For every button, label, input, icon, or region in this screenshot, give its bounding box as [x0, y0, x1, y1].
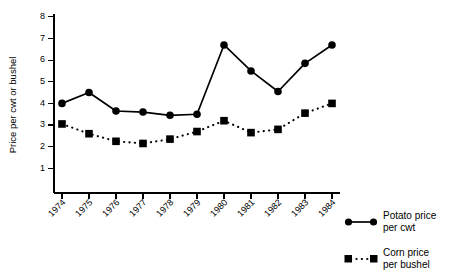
x-tick-label: 1982: [262, 197, 283, 218]
legend-label-corn-line2: per bushel: [383, 259, 430, 270]
data-point-square[interactable]: [139, 140, 147, 148]
data-point-square[interactable]: [274, 126, 282, 134]
y-tick-label: 6: [40, 54, 45, 64]
legend-label-corn-line1: Corn price: [383, 247, 430, 258]
data-point-circle[interactable]: [193, 110, 201, 118]
data-point-square[interactable]: [220, 117, 228, 125]
series-line: [62, 103, 332, 143]
series-potato: [58, 41, 336, 119]
y-tick-label: 1: [40, 163, 45, 173]
series-corn: [58, 100, 336, 148]
x-tick-label: 1975: [73, 197, 94, 218]
x-tick-label: 1980: [208, 197, 229, 218]
x-axis-ticks: 1974 1975 1976 1977 1978 1979 1980 1981 …: [46, 193, 337, 219]
legend-circle-marker: [370, 218, 377, 225]
data-point-circle[interactable]: [301, 60, 309, 68]
data-point-square[interactable]: [193, 128, 201, 136]
legend-label-potato-line1: Potato price: [383, 210, 437, 221]
y-tick-label: 8: [40, 11, 45, 21]
y-tick-label: 2: [40, 141, 45, 151]
data-point-square[interactable]: [301, 109, 309, 117]
y-tick-label: 5: [40, 76, 45, 86]
legend-item-potato[interactable]: Potato price per cwt: [345, 210, 437, 233]
line-chart-svg: Price per cwt or bushel 1 2 3 4 5 6 7 8: [0, 0, 450, 280]
y-tick-label: 3: [40, 119, 45, 129]
x-tick-label: 1981: [235, 197, 256, 218]
legend-square-marker: [345, 255, 353, 263]
chart-legend: Potato price per cwt Corn price per bush…: [345, 210, 437, 270]
x-tick-label: 1983: [289, 197, 310, 218]
y-tick-label: 7: [40, 33, 45, 43]
legend-item-corn[interactable]: Corn price per bushel: [345, 247, 430, 270]
data-point-square[interactable]: [85, 130, 93, 138]
x-tick-label: 1979: [181, 197, 202, 218]
series-line: [62, 45, 332, 115]
legend-circle-marker: [345, 218, 352, 225]
chart-container: Price per cwt or bushel 1 2 3 4 5 6 7 8: [0, 0, 450, 280]
data-point-square[interactable]: [58, 120, 66, 128]
x-tick-label: 1976: [100, 197, 121, 218]
data-point-square[interactable]: [112, 137, 120, 145]
x-tick-label: 1978: [154, 197, 175, 218]
data-point-circle[interactable]: [85, 89, 93, 97]
x-tick-label: 1984: [316, 197, 337, 218]
y-axis-label: Price per cwt or bushel: [7, 57, 18, 154]
data-point-square[interactable]: [166, 135, 174, 143]
y-tick-label: 4: [40, 98, 45, 108]
data-point-square[interactable]: [247, 129, 255, 137]
legend-square-marker: [370, 255, 378, 263]
x-tick-label: 1977: [127, 197, 148, 218]
y-axis-ticks: 1 2 3 4 5 6 7 8: [40, 11, 54, 173]
x-tick-label: 1974: [46, 197, 67, 218]
data-point-circle[interactable]: [247, 67, 255, 75]
data-point-square[interactable]: [328, 100, 336, 108]
data-series-layer: [58, 41, 336, 147]
data-point-circle[interactable]: [112, 107, 120, 115]
data-point-circle[interactable]: [328, 41, 336, 49]
data-point-circle[interactable]: [166, 112, 174, 120]
data-point-circle[interactable]: [139, 108, 147, 116]
legend-label-potato-line2: per cwt: [383, 222, 415, 233]
data-point-circle[interactable]: [58, 100, 66, 108]
data-point-circle[interactable]: [220, 41, 228, 49]
data-point-circle[interactable]: [274, 88, 282, 96]
